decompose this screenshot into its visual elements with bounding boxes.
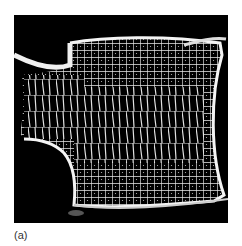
panel-label: (a) [14, 229, 27, 242]
bone-microct-image [14, 15, 228, 223]
trabecular-bone-illustration [14, 15, 228, 223]
